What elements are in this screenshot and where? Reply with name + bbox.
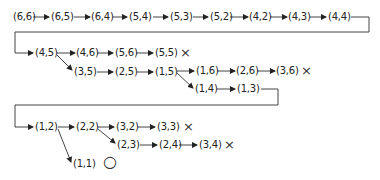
node-3-5: (3,5): [74, 66, 97, 78]
node-3-2: (3,2): [116, 121, 139, 133]
node-4-3: (4,3): [288, 11, 311, 23]
node-3-4: (3,4): [199, 139, 222, 151]
dead-end-cross-icon: ×: [224, 139, 235, 151]
diagram-edges: [0, 0, 380, 180]
node-1-5: (1,5): [155, 66, 178, 78]
dead-end-cross-icon: ×: [183, 121, 194, 133]
node-5-6: (5,6): [115, 47, 138, 59]
node-4-2: (4,2): [249, 11, 272, 23]
node-5-3: (5,3): [170, 11, 193, 23]
node-1-4: (1,4): [195, 83, 218, 95]
node-1-6: (1,6): [196, 65, 219, 77]
node-2-6: (2,6): [236, 65, 259, 77]
node-6-5: (6,5): [51, 11, 74, 23]
node-6-6: (6,6): [13, 11, 36, 23]
goal-circle-icon: ○: [103, 156, 117, 168]
node-2-3: (2,3): [117, 139, 140, 151]
dead-end-cross-icon: ×: [301, 65, 312, 77]
node-1-3: (1,3): [237, 83, 260, 95]
node-5-2: (5,2): [210, 11, 233, 23]
node-4-5: (4,5): [35, 47, 58, 59]
node-2-5: (2,5): [115, 66, 138, 78]
dead-end-cross-icon: ×: [180, 47, 191, 59]
node-2-2: (2,2): [76, 121, 99, 133]
node-4-4: (4,4): [328, 11, 351, 23]
node-6-4: (6,4): [91, 11, 114, 23]
node-5-5: (5,5): [155, 47, 178, 59]
node-2-4: (2,4): [159, 139, 182, 151]
node-1-1: (1,1): [73, 158, 96, 170]
node-3-3: (3,3): [157, 121, 180, 133]
node-4-6: (4,6): [76, 47, 99, 59]
node-1-2: (1,2): [35, 121, 58, 133]
node-5-4: (5,4): [129, 11, 152, 23]
node-3-6: (3,6): [276, 65, 299, 77]
